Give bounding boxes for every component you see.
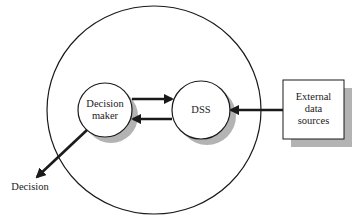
external-label-line2: data [283,103,344,115]
external-label-line3: sources [283,115,344,127]
external-label-line1: External [283,91,344,103]
dss-label: DSS [172,104,230,116]
decision-output-label: Decision [6,181,54,193]
decision-maker-label: Decision maker [78,98,132,122]
external-sources-label: External data sources [283,91,344,127]
decision-maker-label-line2: maker [78,110,132,122]
arrow-decision-maker-to-decision [37,130,87,177]
decision-maker-label-line1: Decision [78,98,132,110]
